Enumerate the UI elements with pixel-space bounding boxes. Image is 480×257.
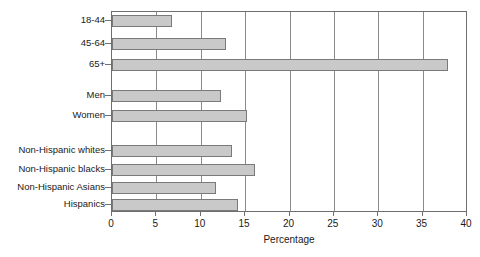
bar — [112, 38, 226, 50]
x-axis-tick-label: 25 — [321, 218, 345, 230]
x-axis-tick — [289, 212, 290, 216]
bar — [112, 145, 232, 157]
bar — [112, 59, 448, 71]
y-axis-label: Hispanics — [64, 199, 105, 209]
y-axis-tick — [105, 187, 111, 188]
x-axis-tick-label: 10 — [188, 218, 212, 230]
gridline — [334, 12, 335, 211]
y-axis-label: Non-Hispanic whites — [18, 145, 105, 155]
x-axis-title: Percentage — [111, 234, 467, 245]
bar — [112, 164, 255, 176]
y-axis-label: 65+ — [89, 59, 105, 69]
bar — [112, 15, 172, 27]
y-axis-label: 18-44 — [81, 15, 105, 25]
x-axis-tick-label: 40 — [454, 218, 478, 230]
bar — [112, 90, 221, 102]
x-axis-tick-label: 35 — [410, 218, 434, 230]
bar — [112, 199, 238, 211]
x-axis-tick — [244, 212, 245, 216]
y-axis-tick — [105, 150, 111, 151]
y-axis-label: 45-64 — [81, 38, 105, 48]
y-axis-tick — [105, 169, 111, 170]
y-axis-tick — [105, 20, 111, 21]
x-axis-tick-label: 5 — [143, 218, 167, 230]
bar — [112, 182, 216, 194]
y-axis-tick — [105, 95, 111, 96]
x-axis-tick — [466, 212, 467, 216]
x-axis-tick-label: 20 — [277, 218, 301, 230]
y-axis-label: Non-Hispanic blacks — [18, 164, 105, 174]
y-axis-tick — [105, 43, 111, 44]
x-axis-tick — [422, 212, 423, 216]
y-axis-label: Non-Hispanic Asians — [17, 182, 105, 192]
x-axis-tick — [111, 212, 112, 216]
bar — [112, 110, 247, 122]
gridline — [290, 12, 291, 211]
y-axis-label: Men — [87, 90, 105, 100]
y-axis-tick — [105, 204, 111, 205]
x-axis-tick — [155, 212, 156, 216]
x-axis-tick — [333, 212, 334, 216]
x-axis-tick-label: 0 — [99, 218, 123, 230]
gridline — [423, 12, 424, 211]
gridline — [378, 12, 379, 211]
y-axis-label: Women — [72, 110, 105, 120]
x-axis-tick-label: 15 — [232, 218, 256, 230]
plot-area — [111, 11, 467, 212]
x-axis-tick — [377, 212, 378, 216]
y-axis-tick — [105, 115, 111, 116]
x-axis-tick-label: 30 — [365, 218, 389, 230]
x-axis-tick — [200, 212, 201, 216]
bar-chart: 18-4445-6465+MenWomenNon-Hispanic whites… — [0, 0, 480, 257]
y-axis-tick — [105, 64, 111, 65]
